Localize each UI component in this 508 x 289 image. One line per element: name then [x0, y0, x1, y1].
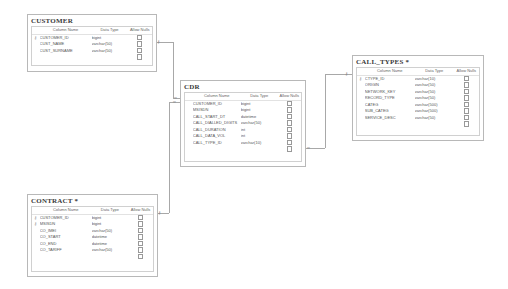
many-end-icon: ∞ — [173, 100, 176, 104]
data-type-header: Data Type — [415, 68, 454, 75]
allow-nulls-checkbox[interactable] — [464, 102, 470, 108]
grid-header: Column Name Data Type Allow Nulls — [357, 68, 479, 76]
new-row[interactable] — [32, 254, 153, 261]
allow-nulls-checkbox[interactable] — [464, 115, 470, 121]
allow-nulls-checkbox[interactable] — [287, 133, 293, 139]
column-grid: Column Name Data Type Allow Nulls CUSTOM… — [184, 92, 302, 162]
many-end-icon: ∞ — [307, 146, 310, 150]
column-grid: Column Name Data Type Allow Nulls ⚷CUSTO… — [31, 206, 154, 272]
primary-key-icon: ⚷ — [32, 221, 40, 228]
table-title: CDR — [184, 83, 302, 92]
table-title: CUSTOMER — [31, 17, 153, 26]
allow-nulls-checkbox[interactable] — [464, 76, 470, 82]
allow-nulls-checkbox[interactable] — [287, 127, 293, 133]
primary-key-icon: ⚷ — [357, 76, 365, 83]
allow-nulls-checkbox[interactable] — [287, 107, 293, 113]
allow-nulls-header: Allow Nulls — [278, 93, 301, 100]
column-name-header: Column Name — [365, 68, 415, 75]
one-end-icon: ⚷ — [158, 211, 161, 215]
allow-nulls-checkbox[interactable] — [464, 82, 470, 88]
allow-nulls-checkbox[interactable] — [464, 89, 470, 95]
one-end-icon: ⚷ — [345, 72, 348, 76]
allow-nulls-checkbox[interactable] — [138, 247, 144, 253]
column-name-header: Column Name — [40, 27, 92, 34]
allow-nulls-checkbox[interactable] — [138, 241, 144, 247]
allow-nulls-checkbox[interactable] — [287, 146, 293, 152]
column-name-header: Column Name — [40, 207, 92, 214]
allow-nulls-checkbox[interactable] — [138, 228, 144, 234]
table-cdr[interactable]: CDR Column Name Data Type Allow Nulls CU… — [180, 80, 306, 167]
allow-nulls-checkbox[interactable] — [287, 101, 293, 107]
allow-nulls-checkbox[interactable] — [287, 140, 293, 146]
one-end-icon: ⚷ — [157, 40, 160, 44]
primary-key-icon: ⚷ — [32, 35, 40, 42]
allow-nulls-checkbox[interactable] — [287, 120, 293, 126]
allow-nulls-checkbox[interactable] — [287, 114, 293, 120]
data-type-header: Data Type — [92, 207, 128, 214]
grid-header: Column Name Data Type Allow Nulls — [32, 207, 153, 215]
table-contract[interactable]: CONTRACT * Column Name Data Type Allow N… — [27, 194, 158, 277]
allow-nulls-checkbox[interactable] — [137, 48, 143, 54]
allow-nulls-header: Allow Nulls — [127, 27, 152, 34]
allow-nulls-checkbox[interactable] — [137, 35, 143, 41]
column-grid: Column Name Data Type Allow Nulls ⚷ CUST… — [31, 26, 153, 66]
new-row[interactable] — [185, 146, 301, 153]
allow-nulls-checkbox[interactable] — [138, 215, 144, 221]
allow-nulls-checkbox[interactable] — [138, 221, 144, 227]
allow-nulls-checkbox[interactable] — [464, 121, 470, 127]
table-customer[interactable]: CUSTOMER Column Name Data Type Allow Nul… — [27, 14, 157, 72]
table-call-types[interactable]: CALL_TYPES * Column Name Data Type Allow… — [352, 55, 484, 141]
column-grid: Column Name Data Type Allow Nulls ⚷CTYPE… — [356, 67, 480, 136]
allow-nulls-checkbox[interactable] — [137, 54, 143, 60]
table-title: CALL_TYPES * — [356, 58, 480, 67]
column-name-header: Column Name — [193, 93, 241, 100]
allow-nulls-checkbox[interactable] — [138, 234, 144, 240]
allow-nulls-checkbox[interactable] — [464, 108, 470, 114]
new-row[interactable] — [32, 54, 152, 61]
allow-nulls-checkbox[interactable] — [137, 41, 143, 47]
allow-nulls-header: Allow Nulls — [454, 68, 479, 75]
data-type-header: Data Type — [241, 93, 278, 100]
allow-nulls-checkbox[interactable] — [464, 95, 470, 101]
grid-header: Column Name Data Type Allow Nulls — [32, 27, 152, 35]
table-title: CONTRACT * — [31, 197, 154, 206]
allow-nulls-checkbox[interactable] — [138, 254, 144, 260]
grid-header: Column Name Data Type Allow Nulls — [185, 93, 301, 101]
allow-nulls-header: Allow Nulls — [128, 207, 153, 214]
new-row[interactable] — [357, 121, 479, 128]
data-type-header: Data Type — [92, 27, 128, 34]
